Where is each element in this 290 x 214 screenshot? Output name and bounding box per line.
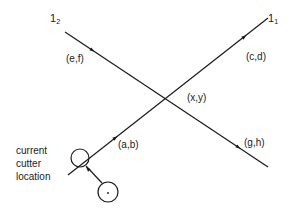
- caption-line-2: cutter: [16, 157, 50, 170]
- cutter-caption: current cutter location: [16, 144, 50, 183]
- line-l1-label: 11: [268, 12, 278, 25]
- point-gh-label: (g,h): [244, 137, 265, 148]
- point-cd-label: (c,d): [246, 51, 266, 62]
- next-cutter-circle: [98, 182, 118, 202]
- cutter-center-dot: [107, 192, 109, 194]
- line-l1: [68, 18, 268, 175]
- current-cutter-circle: [71, 149, 89, 167]
- point-xy-label: (x,y): [187, 92, 206, 103]
- caption-line-3: location: [16, 170, 50, 183]
- line-l2-label: 12: [50, 12, 60, 25]
- caption-line-1: current: [16, 144, 50, 157]
- line-l2-subscript: 2: [56, 18, 60, 25]
- point-ab-label: (a,b): [118, 139, 139, 150]
- point-ef-label: (e,f): [66, 53, 84, 64]
- line-l1-subscript: 1: [274, 18, 278, 25]
